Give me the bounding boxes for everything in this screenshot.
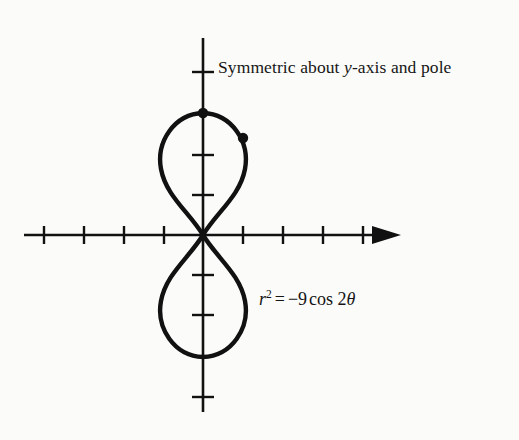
equation-relation: =: [272, 289, 288, 309]
equation-sign: −: [288, 289, 298, 309]
equation-theta-symbol: θ: [347, 289, 356, 309]
caption-variable-y: y: [344, 57, 352, 77]
equation-exponent: 2: [266, 288, 272, 300]
loop-apex-point: [198, 108, 208, 118]
symmetry-caption: Symmetric about y-axis and pole: [218, 57, 451, 78]
curve-sample-point: [238, 133, 248, 143]
polar-graph-figure: Symmetric about y-axis and pole r2=−9cos…: [0, 0, 519, 440]
polar-equation-label: r2=−9cos 2θ: [259, 289, 355, 310]
equation-angle-multiplier: 2: [338, 289, 347, 309]
x-axis-arrowhead-icon: [372, 226, 401, 244]
caption-prefix: Symmetric about: [218, 57, 344, 77]
equation-coefficient: 9: [298, 289, 307, 309]
equation-variable-r: r: [259, 289, 266, 309]
caption-suffix: -axis and pole: [352, 57, 452, 77]
equation-function: cos: [307, 289, 333, 309]
